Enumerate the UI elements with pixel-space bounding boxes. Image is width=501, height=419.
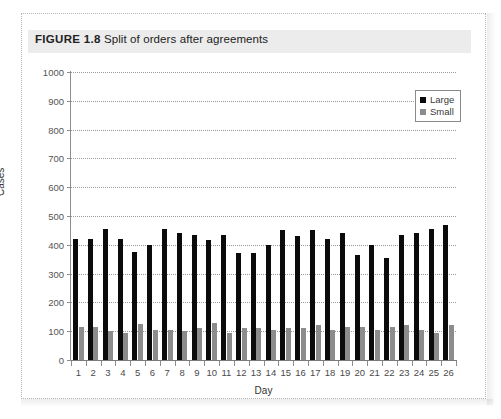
bar-group: [162, 72, 173, 360]
bar-small: [182, 331, 187, 360]
x-axis-tick-mark: [397, 361, 398, 366]
y-axis-tick-mark: [67, 302, 71, 303]
bar-small: [153, 330, 158, 360]
y-axis-tick-mark: [67, 187, 71, 188]
y-axis-tick-label: 900: [30, 95, 64, 106]
x-axis-title: Day: [71, 385, 456, 396]
bar-small: [108, 331, 113, 360]
bar-group: [295, 72, 306, 360]
bar-small: [404, 325, 409, 360]
x-axis-tick-mark: [175, 361, 176, 366]
bar-group: [192, 72, 203, 360]
bar-large: [73, 239, 78, 360]
bar-large: [118, 239, 123, 360]
bar-small: [286, 328, 291, 360]
bar-group: [206, 72, 217, 360]
x-axis-tick-mark: [426, 361, 427, 366]
bar-small: [390, 327, 395, 360]
bar-small: [330, 330, 335, 360]
bar-group: [325, 72, 336, 360]
bar-small: [123, 333, 128, 360]
bar-small: [271, 330, 276, 360]
x-axis-tick-mark: [249, 361, 250, 366]
bar-large: [132, 252, 137, 360]
bar-group: [88, 72, 99, 360]
bar-large: [325, 239, 330, 360]
x-axis-tick-mark: [323, 361, 324, 366]
bar-small: [449, 325, 454, 360]
x-axis-tick-mark: [219, 361, 220, 366]
bar-group: [103, 72, 114, 360]
bar-group: [147, 72, 158, 360]
bar-large: [236, 253, 241, 360]
page-shadow-right: [487, 13, 496, 405]
figure-caption: FIGURE 1.8 Split of orders after agreeme…: [35, 33, 268, 45]
y-axis-tick-label: 600: [30, 182, 64, 193]
figure-caption-text: Split of orders after agreements: [104, 33, 268, 45]
x-axis-tick-mark: [367, 361, 368, 366]
bar-large: [88, 239, 93, 360]
page-shadow-bottom: [21, 399, 493, 407]
x-axis-tick-mark: [71, 361, 72, 366]
plot-area: [71, 72, 456, 360]
bar-large: [162, 229, 167, 360]
bar-small: [79, 327, 84, 360]
bar-large: [280, 230, 285, 360]
y-axis-tick-mark: [67, 101, 71, 102]
bar-large: [103, 229, 108, 360]
y-axis-tick-label: 300: [30, 268, 64, 279]
y-axis-tick-label: 500: [30, 211, 64, 222]
bar-group: [280, 72, 291, 360]
x-axis-tick-mark: [130, 361, 131, 366]
x-axis-tick-mark: [352, 361, 353, 366]
x-axis-tick-mark: [308, 361, 309, 366]
x-axis-tick-mark: [204, 361, 205, 366]
bar-large: [384, 258, 389, 360]
y-axis-tick-mark: [67, 216, 71, 217]
y-axis-tick-label: 0: [30, 355, 64, 366]
bar-group: [221, 72, 232, 360]
bar-large: [340, 233, 345, 360]
bar-group: [355, 72, 366, 360]
x-axis-tick-mark: [264, 361, 265, 366]
bar-large: [192, 235, 197, 360]
bar-large: [443, 225, 448, 360]
bar-large: [295, 236, 300, 360]
bar-large: [177, 233, 182, 360]
y-axis-tick-mark: [67, 245, 71, 246]
y-axis-tick-mark: [67, 72, 71, 73]
bar-group: [177, 72, 188, 360]
bar-small: [227, 333, 232, 360]
x-axis-tick-label: 26: [439, 367, 459, 378]
x-axis-tick-mark: [160, 361, 161, 366]
bar-small: [375, 330, 380, 360]
bar-large: [251, 253, 256, 360]
figure-number: FIGURE 1.8: [35, 33, 101, 45]
bar-small: [301, 328, 306, 360]
legend-label: Large: [430, 94, 454, 106]
x-axis-tick-mark: [145, 361, 146, 366]
x-axis-tick-mark: [456, 361, 457, 366]
legend-label: Small: [430, 106, 454, 118]
y-axis-tick-label: 1000: [30, 67, 64, 78]
bar-small: [242, 328, 247, 360]
legend-item: Small: [420, 106, 454, 118]
y-axis-tick-mark: [67, 331, 71, 332]
bar-small: [138, 324, 143, 360]
bar-large: [206, 240, 211, 360]
bar-group: [118, 72, 129, 360]
bar-group: [73, 72, 84, 360]
bar-large: [369, 245, 374, 360]
y-axis-tick-label: 400: [30, 239, 64, 250]
bar-large: [355, 255, 360, 360]
bar-group: [340, 72, 351, 360]
bar-large: [310, 230, 315, 360]
bar-group: [384, 72, 395, 360]
x-axis-tick-mark: [234, 361, 235, 366]
x-axis-tick-mark: [338, 361, 339, 366]
x-axis-tick-mark: [293, 361, 294, 366]
bar-large: [221, 235, 226, 360]
bar-group: [399, 72, 410, 360]
bar-group: [369, 72, 380, 360]
bar-group: [236, 72, 247, 360]
